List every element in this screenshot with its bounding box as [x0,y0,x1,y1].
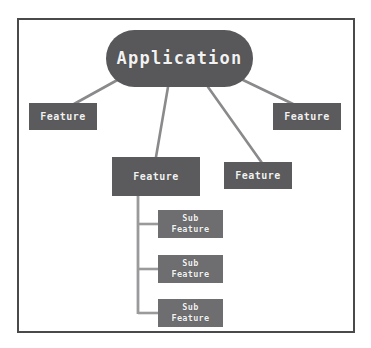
node-sub-feature-2-label-line2: Feature [172,269,210,280]
node-sub-feature-3[interactable]: Sub Feature [158,299,223,327]
node-sub-feature-3-label-line2: Feature [172,313,210,324]
node-application-label: Application [117,49,243,69]
node-feature-right[interactable]: Feature [273,103,341,130]
node-sub-feature-1-label-line1: Sub [182,213,198,224]
node-sub-feature-1[interactable]: Sub Feature [158,210,223,238]
node-feature-right-middle-label: Feature [235,170,281,182]
node-sub-feature-2-label-line1: Sub [182,258,198,269]
node-feature-left-label: Feature [40,111,86,123]
node-sub-feature-3-label-line1: Sub [182,302,198,313]
node-feature-right-middle[interactable]: Feature [224,162,292,189]
node-feature-center-label: Feature [133,171,179,183]
node-feature-center[interactable]: Feature [112,157,200,196]
diagram-canvas: Application Feature Feature Feature Feat… [0,0,371,348]
node-feature-left[interactable]: Feature [29,103,97,130]
node-sub-feature-2[interactable]: Sub Feature [158,255,223,283]
node-sub-feature-1-label-line2: Feature [172,224,210,235]
node-feature-right-label: Feature [284,111,330,123]
node-application[interactable]: Application [106,30,253,87]
